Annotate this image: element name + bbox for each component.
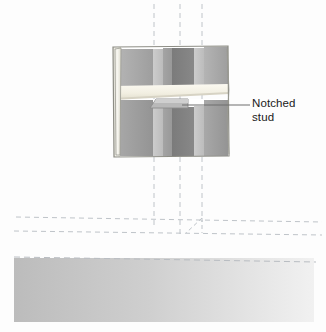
stud-2-upper xyxy=(153,49,163,88)
stud-1-upper xyxy=(118,49,153,88)
stud-2-lower xyxy=(153,108,163,156)
stud-1-lower xyxy=(118,100,153,156)
illustration-figure: Notched stud xyxy=(0,0,326,332)
stud-6-upper xyxy=(204,47,228,88)
floor-band-fill xyxy=(14,258,314,322)
drywall-cutout-panel xyxy=(113,46,229,157)
stud-3-lower xyxy=(163,108,172,156)
stud-4-lower-shadow xyxy=(172,107,194,156)
stud-4-upper-shadow xyxy=(172,48,194,88)
stud-3-upper xyxy=(163,48,172,88)
stud-6-lower xyxy=(204,100,228,156)
stud-notch-highlight xyxy=(154,99,188,103)
floor-band xyxy=(14,257,316,322)
callout-line-1: Notched xyxy=(252,97,296,111)
callout-notched-stud: Notched stud xyxy=(252,97,296,124)
callout-line-2: stud xyxy=(252,111,296,125)
illustration-canvas xyxy=(0,0,326,332)
stud-5-lower xyxy=(194,106,204,156)
stud-5-upper xyxy=(194,48,204,88)
